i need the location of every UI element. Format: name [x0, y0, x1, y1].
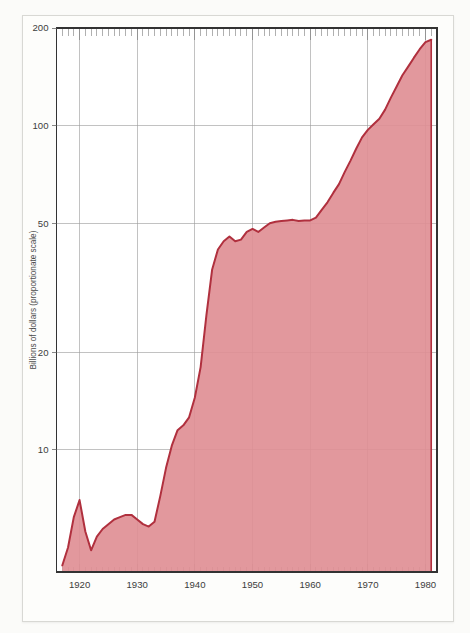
area-chart: 200100502010 192019301940195019601970198… — [0, 0, 470, 633]
x-tick-label: 1970 — [357, 579, 378, 590]
x-tick-label: 1960 — [299, 579, 320, 590]
chart-page: 200100502010 192019301940195019601970198… — [0, 0, 470, 633]
x-axis-tick-labels: 1920193019401950196019701980 — [69, 579, 436, 590]
x-tick-label: 1930 — [127, 579, 148, 590]
y-tick-label: 200 — [32, 22, 48, 33]
x-tick-label: 1920 — [69, 579, 90, 590]
y-tick-label: 100 — [32, 120, 48, 131]
y-tick-label: 50 — [38, 218, 49, 229]
x-tick-label: 1950 — [242, 579, 263, 590]
y-tick-label: 20 — [38, 347, 49, 358]
x-tick-label: 1940 — [184, 579, 205, 590]
y-axis-label: Billions of dollars (proportionate scale… — [29, 230, 38, 369]
y-tick-label: 10 — [38, 444, 49, 455]
y-axis-title: Billions of dollars (proportionate scale… — [29, 230, 38, 369]
x-tick-label: 1980 — [415, 579, 436, 590]
